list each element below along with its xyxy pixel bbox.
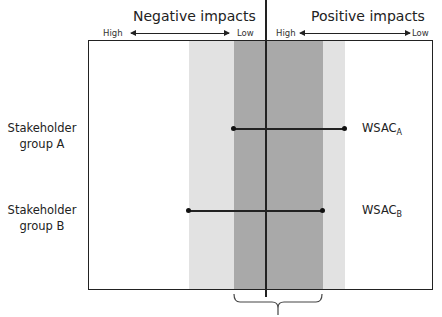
- positive-high-label: High: [276, 28, 296, 38]
- wsac-a-label: WSACA: [362, 121, 402, 137]
- label-line: Stakeholder: [2, 120, 82, 136]
- negative-high-label: High: [103, 28, 123, 38]
- wsac-a-right-endpoint: [342, 126, 347, 131]
- wsac-a-left-endpoint: [231, 126, 236, 131]
- wsac-b-label: WSACB: [362, 203, 402, 219]
- negative-scale-arrow: [131, 33, 229, 34]
- wsac-a-range-line: [234, 128, 345, 130]
- label-line: group B: [2, 218, 82, 234]
- negative-impacts-title: Negative impacts: [133, 8, 256, 24]
- stakeholder-group-b-label: Stakeholder group B: [2, 202, 82, 234]
- wsac-b-range-line: [189, 210, 323, 212]
- positive-low-label: Low: [412, 28, 429, 38]
- negative-low-label: Low: [237, 28, 254, 38]
- wsac-b-right-endpoint: [320, 208, 325, 213]
- zero-impact-axis: [265, 0, 267, 297]
- diagram-frame: [88, 40, 433, 290]
- bracket-brace-icon: [230, 294, 330, 316]
- positive-impacts-title: Positive impacts: [311, 8, 425, 24]
- positive-scale-arrow: [300, 33, 410, 34]
- stakeholder-group-a-label: Stakeholder group A: [2, 120, 82, 152]
- wsac-b-left-endpoint: [186, 208, 191, 213]
- label-line: group A: [2, 136, 82, 152]
- label-line: Stakeholder: [2, 202, 82, 218]
